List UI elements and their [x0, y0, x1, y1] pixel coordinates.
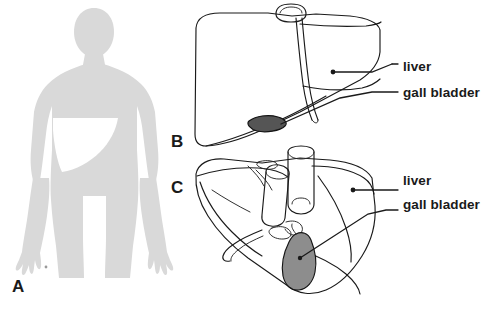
- silhouette-right-arm: [140, 178, 174, 275]
- label-gallbladder-panel-c: gall bladder: [403, 197, 481, 212]
- falciform-ligament-tip-panel-b: [312, 120, 318, 123]
- panel-letter-c: C: [171, 178, 183, 197]
- anatomy-figure: A B: [0, 0, 498, 318]
- liver-fill-panel-b: [195, 13, 380, 146]
- panel-c: C liver gall bladder: [171, 146, 481, 294]
- print-speck: [45, 266, 48, 269]
- figure-canvas: A B: [0, 0, 498, 318]
- silhouette-torso: [31, 64, 159, 278]
- panel-a: A: [12, 8, 173, 296]
- label-liver-panel-b: liver: [403, 59, 432, 74]
- silhouette-left-arm: [16, 178, 50, 275]
- panel-letter-a: A: [12, 277, 24, 296]
- silhouette-head: [74, 8, 114, 58]
- panel-b: B liver gall bladder: [171, 4, 481, 151]
- vena-cava-inner-panel-b: [280, 7, 302, 13]
- panel-letter-b: B: [171, 132, 183, 151]
- label-liver-panel-c: liver: [403, 173, 432, 188]
- gallbladder-panel-b: [248, 116, 286, 132]
- label-gallbladder-panel-b: gall bladder: [403, 85, 481, 100]
